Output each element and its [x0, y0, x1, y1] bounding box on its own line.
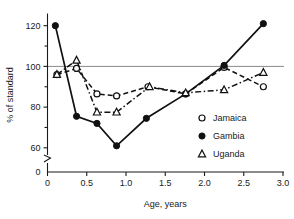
- legend-item-uganda: Uganda: [198, 149, 244, 159]
- legend-item-gambia: Gambia: [199, 131, 245, 141]
- chart-legend: JamaicaGambiaUganda: [198, 113, 246, 159]
- x-axis-title: Age, years: [144, 199, 188, 209]
- axis-break-marker: [44, 155, 51, 162]
- x-tick-label: 1.0: [120, 178, 133, 188]
- y-tick-label: 60: [30, 143, 40, 153]
- data-point-marker: [198, 150, 205, 157]
- data-point-marker: [73, 56, 80, 63]
- data-point-marker: [93, 108, 100, 115]
- y-tick-label: 100: [25, 62, 40, 72]
- data-point-marker: [113, 143, 119, 149]
- data-point-marker: [52, 23, 58, 29]
- data-point-marker: [260, 69, 267, 76]
- data-point-marker: [199, 133, 205, 139]
- axes: [44, 14, 284, 173]
- line-chart-plot: 06080100120 00.51.01.52.02.53.0 Age, yea…: [0, 0, 294, 219]
- x-tick-label: 2.0: [198, 178, 211, 188]
- data-point-marker: [199, 115, 205, 121]
- legend-label: Jamaica: [213, 113, 247, 123]
- chart-container: 06080100120 00.51.01.52.02.53.0 Age, yea…: [0, 0, 294, 219]
- data-point-marker: [94, 120, 100, 126]
- data-point-marker: [260, 21, 266, 27]
- y-axis-title: % of standard: [5, 67, 15, 123]
- data-point-marker: [73, 113, 79, 119]
- data-point-marker: [143, 115, 149, 121]
- data-point-marker: [94, 91, 100, 97]
- x-tick-label: 3.0: [277, 178, 290, 188]
- series-line: [57, 60, 263, 112]
- legend-item-jamaica: Jamaica: [199, 113, 247, 123]
- series-uganda: [53, 56, 267, 115]
- legend-label: Uganda: [213, 149, 245, 159]
- x-tick-label: 1.5: [159, 178, 172, 188]
- data-point-marker: [114, 93, 120, 99]
- x-tick-label: 0.5: [80, 178, 93, 188]
- data-point-marker: [260, 84, 266, 90]
- y-tick-label: 0: [35, 167, 40, 177]
- data-series-group: [52, 21, 267, 149]
- x-tick-label: 2.5: [237, 178, 250, 188]
- x-axis-ticks: 00.51.01.52.02.53.0: [45, 172, 289, 188]
- data-point-marker: [221, 62, 227, 68]
- y-tick-label: 80: [30, 102, 40, 112]
- y-tick-label: 120: [25, 21, 40, 31]
- x-tick-label: 0: [45, 178, 50, 188]
- series-line: [57, 67, 263, 96]
- y-axis-ticks: 06080100120: [25, 21, 47, 177]
- legend-label: Gambia: [213, 131, 245, 141]
- series-jamaica: [54, 64, 266, 99]
